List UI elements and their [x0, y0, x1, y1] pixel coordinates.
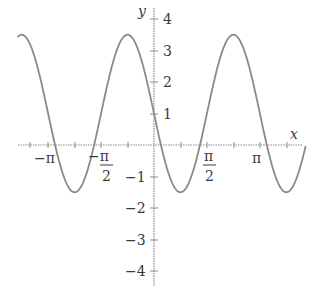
sine-curve	[18, 35, 306, 193]
x-tick-label-neg-pi: −π	[34, 150, 55, 166]
x-axis-label: x	[290, 126, 298, 142]
y-tick-label-neg2: −2	[125, 200, 146, 216]
y-tick-label-neg1: −1	[125, 169, 146, 185]
function-plot: y x 4 3 2 1 −1 −2 −3 −4 −π −π 2 π 2 π	[0, 0, 318, 289]
x-tick-label-pi: π	[252, 150, 261, 166]
x-tick-label-neg-pi-half-den: 2	[102, 168, 111, 184]
x-tick-label-pi-half-den: 2	[205, 168, 214, 184]
x-tick-label-neg-pi-half-num: −π	[88, 148, 109, 164]
y-tick-label-neg4: −4	[125, 263, 146, 279]
y-tick-label-2: 2	[163, 74, 172, 90]
x-tick-label-pi-half-num: π	[204, 148, 213, 164]
y-tick-label-1: 1	[163, 106, 172, 122]
y-tick-label-3: 3	[163, 43, 172, 59]
y-tick-label-neg3: −3	[125, 232, 146, 248]
y-tick-label-4: 4	[163, 11, 172, 27]
y-axis-label: y	[137, 3, 147, 19]
